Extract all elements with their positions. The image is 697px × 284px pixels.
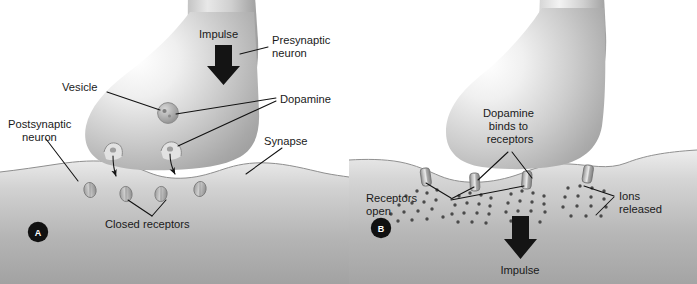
label-synapse-a: Synapse [264,135,308,147]
label-dopamine-binds-line3: receptors [487,133,534,145]
panel-badge-b-letter: B [378,224,385,234]
panel-a: Impulse Presynaptic neuron Vesicle Dopam… [0,0,349,284]
figure-canvas: Impulse Presynaptic neuron Vesicle Dopam… [0,0,697,284]
open-receptor-1-b [420,167,432,186]
label-dopamine-a: Dopamine [280,93,331,105]
panel-badge-a-letter: A [35,228,42,238]
label-dopamine-binds-line2: binds to [489,120,528,132]
label-postsynaptic-neuron-a: Postsynaptic neuron [8,118,75,143]
label-presynaptic-line1: Presynaptic [272,34,331,46]
label-ions-released-line1: Ions [619,190,641,202]
label-closed-receptors-a: Closed receptors [105,218,190,230]
label-impulse-a: Impulse [199,28,238,40]
label-dopamine-binds-line1: Dopamine [483,107,534,119]
label-receptors-open-line2: open [366,205,391,217]
label-postsynaptic-line1: Postsynaptic [8,118,72,130]
label-vesicle-a: Vesicle [62,81,97,93]
panel-badge-a: A [28,222,48,242]
panel-badge-b: B [371,218,391,238]
synapse-figure: Impulse Presynaptic neuron Vesicle Dopam… [0,0,697,284]
label-dopamine-binds-b: Dopamine binds to receptors [483,107,537,145]
panel-b: Dopamine binds to receptors Receptors op… [349,0,697,284]
label-presynaptic-neuron-a: Presynaptic neuron [272,34,334,59]
label-receptors-open-line1: Receptors [366,192,417,204]
label-presynaptic-line2: neuron [272,47,307,59]
label-postsynaptic-line2: neuron [22,131,57,143]
label-ions-released-line2: released [619,203,662,215]
label-impulse-b: Impulse [500,264,539,276]
vesicle-a [158,103,179,124]
fusion-pore-right-a [161,142,181,160]
